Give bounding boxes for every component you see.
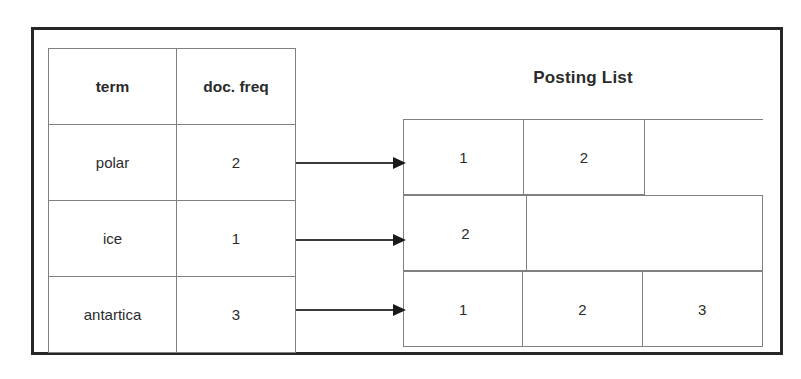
arrow-line: [296, 239, 394, 241]
posting-row-ice: 2: [403, 195, 763, 271]
posting-cell: 2: [524, 120, 644, 194]
posting-cell: 2: [523, 272, 642, 346]
posting-list-panel: 1 2 2 1 2 3: [403, 119, 763, 347]
table-header-row: term doc. freq: [49, 49, 296, 125]
arrow-head: [393, 234, 406, 246]
arrow-line: [296, 309, 394, 311]
dictionary-table: term doc. freq polar 2 ice 1 antartica 3: [48, 48, 296, 353]
arrow-head: [393, 304, 406, 316]
arrow-icon-antartica-to-postings: [296, 304, 406, 316]
term-cell-antartica: antartica: [49, 277, 177, 353]
posting-cells: 1 2: [403, 119, 645, 195]
doc-freq-cell-antartica: 3: [177, 277, 296, 353]
column-header-term: term: [49, 49, 177, 125]
posting-cells: 1 2 3: [403, 271, 763, 347]
posting-list-top-rule: [644, 119, 763, 120]
posting-row-antartica: 1 2 3: [403, 271, 763, 347]
table-row: antartica 3: [49, 277, 296, 353]
posting-cell: 1: [404, 120, 524, 194]
column-header-doc-freq: doc. freq: [177, 49, 296, 125]
posting-list-title: Posting List: [403, 68, 763, 88]
arrow-icon-polar-to-postings: [296, 157, 406, 169]
arrow-line: [296, 162, 394, 164]
posting-cell: 1: [404, 272, 523, 346]
diagram-frame: term doc. freq polar 2 ice 1 antartica 3…: [31, 27, 783, 355]
posting-cell: 2: [404, 196, 527, 270]
arrow-icon-ice-to-postings: [296, 234, 406, 246]
arrow-head: [393, 157, 406, 169]
term-cell-ice: ice: [49, 201, 177, 277]
posting-cell: 3: [643, 272, 762, 346]
doc-freq-cell-polar: 2: [177, 125, 296, 201]
table-row: ice 1: [49, 201, 296, 277]
posting-cells: 2: [403, 195, 763, 271]
term-cell-polar: polar: [49, 125, 177, 201]
posting-row-ice-divider: [526, 195, 527, 271]
doc-freq-cell-ice: 1: [177, 201, 296, 277]
table-row: polar 2: [49, 125, 296, 201]
posting-row-polar: 1 2: [403, 119, 645, 195]
